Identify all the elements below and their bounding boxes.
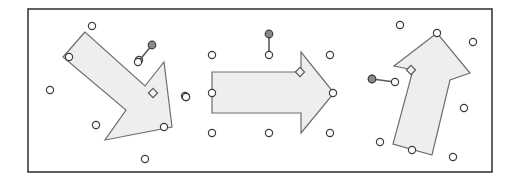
vector-editor-canvas[interactable] bbox=[0, 0, 521, 188]
bbox-handle-nw[interactable] bbox=[396, 21, 403, 28]
bbox-handle-sw[interactable] bbox=[92, 121, 99, 128]
bbox-handle-s[interactable] bbox=[141, 155, 148, 162]
bbox-handle-nw[interactable] bbox=[208, 51, 215, 58]
rotation-handle-knob[interactable] bbox=[265, 30, 273, 38]
vertex-handle-tail-top[interactable] bbox=[65, 53, 72, 60]
bbox-handle-n[interactable] bbox=[88, 22, 95, 29]
rotation-handle-anchor[interactable] bbox=[391, 78, 398, 85]
vertex-handle-tail-left[interactable] bbox=[208, 89, 215, 96]
bbox-handle-ne[interactable] bbox=[326, 51, 333, 58]
vertex-handle-tail[interactable] bbox=[408, 146, 415, 153]
canvas-svg[interactable] bbox=[0, 0, 521, 188]
rotation-handle-anchor[interactable] bbox=[265, 51, 272, 58]
rotation-handle-knob[interactable] bbox=[148, 41, 156, 49]
bbox-handle-sw[interactable] bbox=[376, 138, 383, 145]
vertex-handle-head-right[interactable] bbox=[160, 123, 167, 130]
bbox-handle-se[interactable] bbox=[326, 129, 333, 136]
bbox-handle-sw[interactable] bbox=[208, 129, 215, 136]
vertex-handle-tip[interactable] bbox=[329, 89, 336, 96]
bbox-handle-se[interactable] bbox=[449, 153, 456, 160]
bbox-handle-s[interactable] bbox=[265, 129, 272, 136]
rotation-handle-knob[interactable] bbox=[368, 75, 376, 83]
vertex-handle-tip[interactable] bbox=[433, 29, 440, 36]
bbox-handle-ne[interactable] bbox=[469, 38, 476, 45]
rotation-handle-anchor[interactable] bbox=[134, 58, 141, 65]
bbox-handle-left-outer[interactable] bbox=[182, 93, 189, 100]
bbox-handle-e[interactable] bbox=[460, 104, 467, 111]
bbox-handle-w[interactable] bbox=[46, 86, 53, 93]
